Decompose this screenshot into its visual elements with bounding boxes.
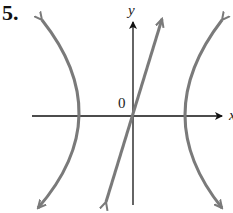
hyperbola-left-branch xyxy=(38,20,79,208)
origin-label: 0 xyxy=(118,96,126,111)
x-axis-label: x xyxy=(229,108,233,123)
y-axis-label: y xyxy=(128,3,135,18)
hyperbola-graph xyxy=(0,0,233,213)
hyperbola-right-branch xyxy=(185,20,222,208)
asymptote-line xyxy=(106,19,162,202)
